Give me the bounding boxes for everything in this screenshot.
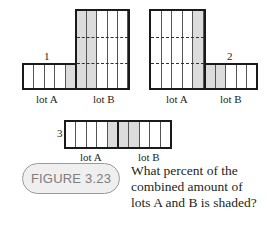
lot-column-shaded	[108, 122, 117, 147]
lot-a-rect	[149, 9, 206, 90]
dashed-divider	[151, 37, 204, 38]
lot-column-shaded	[129, 122, 139, 147]
lot-column-shaded	[87, 11, 97, 88]
lot-column	[97, 122, 107, 147]
lot-a-label: lot A	[36, 93, 58, 105]
lot-column	[76, 122, 86, 147]
lot-column	[161, 122, 170, 147]
lot-column	[247, 65, 256, 88]
lot-a-rect	[64, 120, 119, 149]
lot-column	[162, 11, 173, 88]
lot-column-shaded	[77, 11, 87, 88]
lot-b-rect	[117, 120, 172, 149]
dashed-divider	[151, 63, 204, 64]
lot-column-shaded	[119, 122, 129, 147]
lot-b-rect	[75, 9, 130, 90]
lot-column	[45, 65, 55, 88]
lot-column-shaded	[193, 11, 204, 88]
lot-column-shaded	[206, 65, 216, 88]
lot-column	[151, 11, 162, 88]
lot-column	[24, 65, 34, 88]
lot-a-label: lot A	[166, 93, 188, 105]
lot-column	[183, 11, 194, 88]
caption-line: What percent of the	[131, 163, 269, 179]
lot-column	[97, 11, 107, 88]
lot-column	[66, 122, 76, 147]
dashed-divider	[77, 37, 128, 38]
caption-line: lots A and B is shaded?	[131, 195, 269, 211]
figure-caption: What percent of the combined amount of l…	[131, 163, 269, 211]
lot-column-shaded	[216, 65, 226, 88]
lot-column	[172, 11, 183, 88]
caption-line: combined amount of	[131, 179, 269, 195]
diagram-number: 2	[227, 50, 233, 62]
lot-column	[34, 65, 44, 88]
lot-a-rect	[22, 63, 77, 90]
figure-label: FIGURE 3.23	[31, 171, 111, 186]
figure-label-badge: FIGURE 3.23	[22, 163, 120, 194]
lot-a-label: lot A	[80, 151, 102, 163]
diagram-number: 3	[57, 127, 63, 139]
lot-column	[108, 11, 118, 88]
lot-b-label: lot B	[220, 93, 242, 105]
lot-b-label: lot B	[93, 93, 115, 105]
lot-b-rect	[204, 63, 258, 90]
lot-column	[237, 65, 247, 88]
lot-b-label: lot B	[138, 151, 160, 163]
dashed-divider	[77, 63, 128, 64]
lot-column	[226, 65, 236, 88]
lot-column-shaded	[66, 65, 75, 88]
lot-column	[55, 65, 65, 88]
lot-column	[140, 122, 150, 147]
lot-column	[118, 11, 128, 88]
diagram-number: 1	[44, 50, 50, 62]
lot-column	[87, 122, 97, 147]
lot-column	[150, 122, 160, 147]
